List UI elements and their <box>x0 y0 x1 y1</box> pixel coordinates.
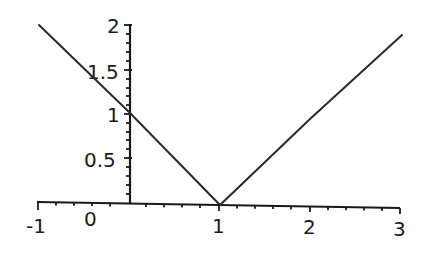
x-tick-label-3: 3 <box>393 217 406 241</box>
function-curve-abs <box>39 25 402 205</box>
y-tick-label-1: 1 <box>107 103 120 127</box>
x-tick-label-minus-1: -1 <box>26 214 46 238</box>
x-tick-label-1: 1 <box>212 214 225 238</box>
x-tick-label-2: 2 <box>303 215 316 239</box>
line-chart: -1 0 1 2 3 2 <box>0 0 434 253</box>
x-tick-label-0: 0 <box>84 207 97 231</box>
x-axis: -1 0 1 2 3 <box>26 202 406 241</box>
y-tick-label-1-5: 1.5 <box>87 60 119 84</box>
y-tick-label-0-5: 0.5 <box>84 148 116 172</box>
y-tick-label-2: 2 <box>107 14 120 38</box>
